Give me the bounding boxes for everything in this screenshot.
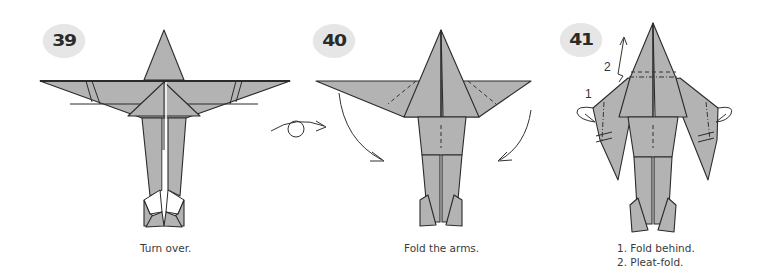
caption-line-2: 2. Pleat-fold. — [617, 255, 695, 269]
step-41: 41 1. Fold behind. 2. Pleat-fold. — [540, 0, 767, 271]
step-number-badge: 41 — [560, 23, 603, 57]
step-caption: Fold the arms. — [404, 242, 479, 254]
step-caption: 1. Fold behind. 2. Pleat-fold. — [617, 241, 695, 269]
step-39: 39 Turn over. — [0, 0, 300, 271]
caption-line-1: 1. Fold behind. — [617, 241, 695, 255]
step-caption: Turn over. — [140, 242, 191, 254]
step-number-badge: 40 — [313, 24, 356, 58]
step-number-badge: 39 — [43, 24, 86, 58]
step-40: 40 Fold the arms. — [300, 0, 540, 271]
